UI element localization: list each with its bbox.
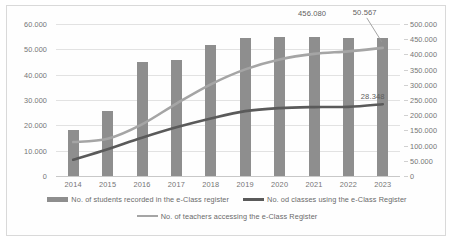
left-axis-tick-label: 60.000 [24, 20, 47, 29]
legend-item[interactable]: No. of teachers accessing the e-Class Re… [137, 211, 318, 221]
right-axis: 050.000100.000150.000200.000250.000300.0… [404, 24, 454, 176]
left-axis: 010.00020.00030.00040.00050.00060.000 [7, 24, 52, 176]
right-axis-tick-mark [404, 130, 408, 131]
right-axis-tick-label: 450.000 [410, 35, 437, 44]
right-axis-tick-mark [404, 24, 408, 25]
legend-swatch-bar [47, 197, 68, 202]
line-path [73, 48, 383, 142]
legend-label: No. of teachers accessing the e-Class Re… [161, 212, 318, 221]
data-label: 50.567 [353, 8, 377, 17]
chart-container: 010.00020.00030.00040.00050.00060.000 45… [6, 5, 446, 236]
right-axis-tick-mark [404, 85, 408, 86]
right-axis-tick-mark [404, 161, 408, 162]
left-axis-tick-label: 50.000 [24, 45, 47, 54]
legend-item[interactable]: No. of students recorded in the e-Class … [47, 194, 229, 204]
data-label: 456.080 [298, 9, 326, 18]
right-axis-tick-label: 500.000 [410, 20, 437, 29]
chart-legend: No. of students recorded in the e-Class … [15, 194, 439, 236]
category-axis: 2014201520162017201820192020202120222023 [56, 180, 400, 192]
category-tick-label: 2018 [194, 180, 228, 189]
left-axis-tick-label: 10.000 [24, 147, 47, 156]
left-axis-tick-label: 30.000 [24, 96, 47, 105]
legend-row-1: No. of students recorded in the e-Class … [15, 194, 439, 204]
left-axis-tick-label: 20.000 [24, 121, 47, 130]
gridline [56, 176, 400, 177]
left-axis-tick-label: 40.000 [24, 71, 47, 80]
category-tick-label: 2020 [263, 180, 297, 189]
category-tick-label: 2015 [91, 180, 125, 189]
right-axis-tick-label: 400.000 [410, 50, 437, 59]
legend-swatch-line-light [137, 215, 158, 217]
plot-area: 456.08050.56728.348 [56, 24, 400, 176]
right-axis-tick-mark [404, 176, 408, 177]
category-tick-label: 2023 [366, 180, 400, 189]
right-axis-tick-mark [404, 115, 408, 116]
right-axis-tick-mark [404, 70, 408, 71]
left-axis-tick-label: 0 [43, 172, 47, 181]
line-series [56, 24, 400, 176]
line-path [73, 104, 383, 160]
legend-swatch-line [243, 198, 264, 201]
category-tick-label: 2017 [159, 180, 193, 189]
right-axis-tick-label: 250.000 [410, 96, 437, 105]
category-tick-label: 2019 [228, 180, 262, 189]
legend-item[interactable]: No. od classes using the e-Class Registe… [243, 194, 407, 204]
category-tick-label: 2016 [125, 180, 159, 189]
callout-leader-line [367, 18, 382, 42]
legend-row-2: No. of teachers accessing the e-Class Re… [15, 211, 439, 221]
right-axis-tick-label: 100.000 [410, 142, 437, 151]
right-axis-tick-mark [404, 100, 408, 101]
right-axis-tick-mark [404, 39, 408, 40]
right-axis-tick-label: 0 [410, 172, 414, 181]
category-tick-label: 2022 [331, 180, 365, 189]
right-axis-tick-label: 50.000 [410, 157, 433, 166]
right-axis-tick-label: 200.000 [410, 111, 437, 120]
data-label: 28.348 [361, 92, 385, 101]
right-axis-tick-mark [404, 54, 408, 55]
legend-label: No. of students recorded in the e-Class … [71, 195, 229, 204]
legend-label: No. od classes using the e-Class Registe… [267, 195, 407, 204]
right-axis-tick-label: 150.000 [410, 126, 437, 135]
category-tick-label: 2014 [56, 180, 90, 189]
right-axis-tick-label: 300.000 [410, 81, 437, 90]
right-axis-tick-label: 350.000 [410, 66, 437, 75]
right-axis-tick-mark [404, 146, 408, 147]
category-tick-label: 2021 [297, 180, 331, 189]
